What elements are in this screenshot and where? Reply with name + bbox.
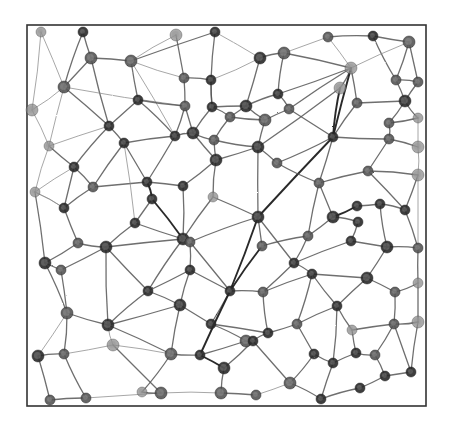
graph-node — [272, 158, 282, 168]
graph-node — [254, 52, 266, 64]
graph-node — [323, 32, 333, 42]
graph-node — [352, 201, 362, 211]
graph-node — [73, 238, 83, 248]
graph-node — [185, 265, 195, 275]
graph-node — [399, 95, 411, 107]
graph-node — [142, 177, 152, 187]
graph-node — [263, 328, 273, 338]
graph-node — [309, 349, 319, 359]
graph-node — [353, 217, 363, 227]
graph-node — [58, 81, 70, 93]
graph-node — [240, 100, 252, 112]
graph-node — [130, 218, 140, 228]
graph-node — [380, 371, 390, 381]
graph-node — [218, 362, 230, 374]
graph-node — [210, 154, 222, 166]
graph-node — [119, 138, 129, 148]
graph-node — [314, 178, 324, 188]
graph-node — [412, 169, 424, 181]
graph-node — [390, 287, 400, 297]
graph-node — [210, 27, 220, 37]
graph-node — [208, 192, 218, 202]
graph-node — [327, 211, 339, 223]
graph-node — [332, 301, 342, 311]
graph-node — [81, 393, 91, 403]
graph-node — [334, 82, 346, 94]
graph-node — [368, 31, 378, 41]
graph-node — [413, 77, 423, 87]
graph-node — [59, 203, 69, 213]
graph-node — [412, 316, 424, 328]
graph-node — [248, 336, 258, 346]
graph-node — [85, 52, 97, 64]
graph-node — [345, 62, 357, 74]
graph-node — [36, 27, 46, 37]
graph-node — [125, 55, 137, 67]
graph-node — [107, 339, 119, 351]
graph-node — [400, 205, 410, 215]
graph-node — [406, 367, 416, 377]
graph-node — [352, 98, 362, 108]
graph-node — [278, 47, 290, 59]
graph-node — [252, 141, 264, 153]
graph-node — [384, 118, 394, 128]
graph-node — [284, 377, 296, 389]
graph-node — [303, 231, 313, 241]
graph-node — [412, 141, 424, 153]
graph-node — [88, 182, 98, 192]
graph-node — [391, 75, 401, 85]
graph-node — [30, 187, 40, 197]
graph-node — [413, 113, 423, 123]
graph-node — [225, 286, 235, 296]
graph-node — [102, 319, 114, 331]
graph-node — [78, 27, 88, 37]
graph-node — [328, 358, 338, 368]
graph-node — [56, 265, 66, 275]
graph-node — [174, 299, 186, 311]
graph-node — [403, 36, 415, 48]
graph-node — [316, 394, 326, 404]
graph-node — [289, 258, 299, 268]
graph-node — [363, 166, 373, 176]
graph-node — [137, 387, 147, 397]
graph-node — [206, 319, 216, 329]
graph-node — [413, 243, 423, 253]
graph-node — [351, 348, 361, 358]
graph-node — [143, 286, 153, 296]
graph-node — [257, 241, 267, 251]
graph-node — [44, 141, 54, 151]
graph-node — [225, 112, 235, 122]
graph-node — [381, 241, 393, 253]
graph-node — [375, 199, 385, 209]
graph-node — [187, 127, 199, 139]
network-graph-canvas — [0, 0, 450, 433]
graph-node — [389, 319, 399, 329]
graph-node — [259, 114, 271, 126]
graph-node — [209, 135, 219, 145]
graph-node — [178, 181, 188, 191]
graph-node — [252, 211, 264, 223]
graph-node — [45, 395, 55, 405]
graph-node — [206, 75, 216, 85]
graph-node — [207, 102, 217, 112]
graph-node — [215, 387, 227, 399]
graph-node — [32, 350, 44, 362]
graph-node — [361, 272, 373, 284]
graph-node — [384, 134, 394, 144]
network-diagram — [0, 0, 450, 433]
diagram-frame — [27, 25, 426, 406]
graph-node — [155, 387, 167, 399]
graph-node — [165, 348, 177, 360]
graph-node — [147, 194, 157, 204]
graph-node — [346, 236, 356, 246]
graph-node — [26, 104, 38, 116]
graph-node — [307, 269, 317, 279]
graph-node — [273, 89, 283, 99]
graph-node — [170, 131, 180, 141]
graph-node — [39, 257, 51, 269]
graph-node — [413, 278, 423, 288]
graph-node — [251, 390, 261, 400]
graph-node — [180, 101, 190, 111]
graph-node — [185, 237, 195, 247]
graph-node — [284, 104, 294, 114]
